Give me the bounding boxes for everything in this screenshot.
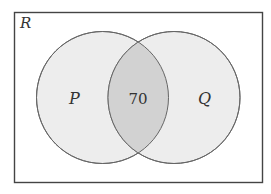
set-q-label: Q bbox=[198, 89, 211, 108]
set-p-label: P bbox=[68, 89, 80, 108]
universe-label: R bbox=[19, 14, 31, 32]
venn-diagram: R P 70 Q bbox=[0, 0, 271, 194]
intersection-value: 70 bbox=[128, 90, 147, 108]
